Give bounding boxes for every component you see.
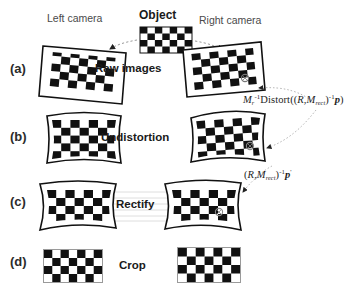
cropped-left-image bbox=[43, 249, 103, 283]
stage-label-rectify: Rectify bbox=[116, 198, 154, 210]
formula-undistort-close: ) bbox=[340, 94, 344, 105]
right-camera-label: Right camera bbox=[199, 14, 261, 26]
formula-rectify-mrect-sub: rect bbox=[266, 174, 276, 181]
row-tag-d: (d) bbox=[10, 254, 27, 269]
formula-undistort-fn: Distort bbox=[260, 94, 290, 105]
raw-left-image bbox=[39, 46, 126, 104]
formula-rectify-prime: ' bbox=[290, 168, 291, 175]
arrow-undistort-formula-to-undistorted-right bbox=[267, 110, 316, 148]
formula-rectify-mrect: M bbox=[257, 169, 266, 180]
formula-undistort-mrect-sub: rect bbox=[315, 99, 325, 106]
formula-undistort: Mr-1Distort((R,Mrect)-1p) bbox=[243, 93, 344, 106]
object-label: Object bbox=[139, 8, 176, 22]
formula-undistort-matrix: M bbox=[243, 94, 252, 105]
row-tag-c: (c) bbox=[10, 194, 26, 209]
rectified-right-image bbox=[165, 180, 241, 230]
arrow-object-to-left-camera bbox=[110, 40, 137, 49]
formula-rectify: (R,Mrect)-1p' bbox=[244, 168, 292, 181]
raw-right-image bbox=[183, 42, 265, 97]
stage-label-raw-images: Raw images bbox=[95, 62, 161, 74]
left-camera-label: Left camera bbox=[47, 12, 102, 24]
stereo-calibration-pipeline-figure: Object Left camera Right camera (a) (b) … bbox=[0, 0, 362, 297]
row-tag-b: (b) bbox=[10, 129, 27, 144]
cropped-right-image bbox=[177, 247, 241, 283]
rectified-left-image bbox=[40, 181, 116, 230]
formula-undistort-matrix-sub: r bbox=[252, 99, 255, 106]
undistorted-right-image bbox=[191, 111, 265, 162]
pipeline-diagram-svg bbox=[0, 0, 362, 297]
row-tag-a: (a) bbox=[10, 61, 26, 76]
stage-label-crop: Crop bbox=[119, 259, 146, 271]
stage-label-undistortion: Undistortion bbox=[101, 131, 169, 143]
